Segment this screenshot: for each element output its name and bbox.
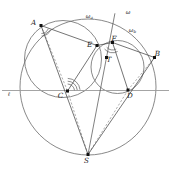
label-omega: ω (126, 9, 131, 15)
figure-canvas: ABCDEFTS ω ω a ω b ℓ (0, 0, 171, 173)
point-group (40, 24, 157, 156)
label-omega-a-subscript: a (91, 15, 94, 20)
point-label-group: ABCDEFTS (30, 18, 160, 165)
geometry-figure: ABCDEFTS ω ω a ω b ℓ (0, 0, 171, 173)
segment-BS (88, 58, 155, 155)
point-label-S: S (84, 156, 89, 165)
label-omega-b-subscript: b (134, 29, 137, 34)
point-label-D: D (126, 91, 133, 100)
label-line-ell: ℓ (8, 91, 11, 97)
segment-FB (113, 43, 155, 58)
point-label-A: A (30, 18, 36, 27)
point-A (40, 24, 43, 27)
segment-radical-axis (88, 58, 107, 155)
segment-EF (97, 43, 113, 46)
circle-omega-b (91, 41, 144, 94)
segment-BD (128, 58, 155, 91)
point-label-E: E (86, 40, 93, 49)
point-label-T: T (107, 55, 113, 64)
point-label-F: F (111, 34, 118, 43)
segment-AS (41, 26, 88, 155)
point-E (96, 44, 99, 47)
point-C (66, 90, 69, 93)
point-label-B: B (154, 49, 160, 58)
point-label-C: C (58, 91, 64, 100)
segment-CS (68, 91, 89, 155)
